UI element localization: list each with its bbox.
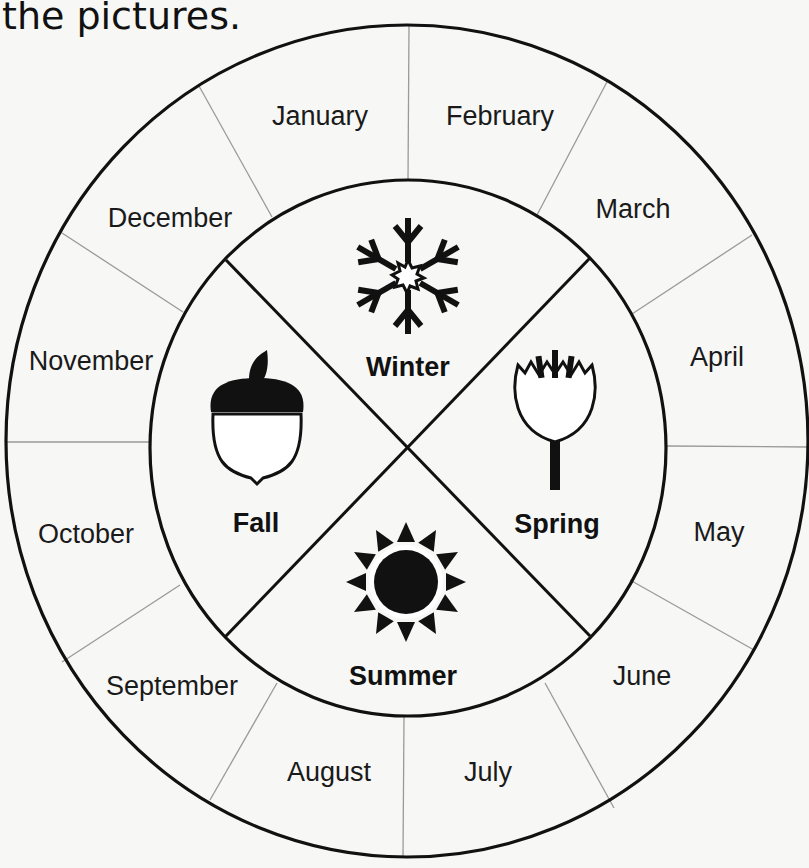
month-label-december: December	[108, 203, 233, 233]
month-label-january: January	[272, 101, 369, 131]
month-label-may: May	[693, 517, 745, 547]
month-label-november: November	[29, 346, 154, 376]
seasons-wheel-diagram: January February March April May June Ju…	[0, 0, 809, 868]
acorn-icon	[210, 350, 303, 484]
month-label-april: April	[690, 342, 744, 372]
month-label-february: February	[446, 101, 555, 131]
month-label-march: March	[595, 194, 670, 224]
month-label-july: July	[464, 757, 513, 787]
season-label-fall: Fall	[233, 508, 280, 538]
month-label-august: August	[287, 757, 372, 787]
month-label-september: September	[106, 671, 238, 701]
month-dividers	[6, 25, 808, 858]
month-label-october: October	[38, 519, 134, 549]
sun-icon	[346, 522, 466, 642]
season-label-summer: Summer	[349, 661, 458, 691]
snowflake-icon	[351, 218, 464, 334]
flower-bud-icon	[515, 350, 595, 490]
season-label-winter: Winter	[366, 352, 450, 382]
month-label-june: June	[613, 661, 672, 691]
outer-ring	[6, 25, 808, 857]
season-label-spring: Spring	[514, 509, 600, 539]
